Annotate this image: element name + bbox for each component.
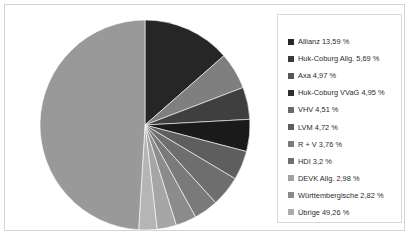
legend-color-swatch-icon xyxy=(288,124,294,130)
legend-color-swatch-icon xyxy=(288,39,294,45)
legend-item-label: VHV 4,51 % xyxy=(298,105,338,114)
legend-list: Allianz 13,59 %Huk-Coburg Allg. 5,69 %Ax… xyxy=(288,33,399,221)
legend-color-swatch-icon xyxy=(288,175,294,181)
legend-color-swatch-icon xyxy=(288,56,294,62)
legend-item-label: Huk-Coburg VVaG 4,95 % xyxy=(298,88,385,97)
legend-color-swatch-icon xyxy=(288,107,294,113)
legend-item[interactable]: Württembergische 2,82 % xyxy=(288,187,399,204)
legend-item-label: Württembergische 2,82 % xyxy=(298,191,384,200)
legend-color-swatch-icon xyxy=(288,209,294,215)
legend-item[interactable]: Axa 4,97 % xyxy=(288,67,399,84)
legend-item[interactable]: Huk-Coburg VVaG 4,95 % xyxy=(288,84,399,101)
pie-slice[interactable] xyxy=(40,20,145,230)
legend-item[interactable]: DEVK Allg. 2,98 % xyxy=(288,170,399,187)
legend-item-label: DEVK Allg. 2,98 % xyxy=(298,174,360,183)
legend-item[interactable]: HDI 3,2 % xyxy=(288,153,399,170)
legend-color-swatch-icon xyxy=(288,158,294,164)
chart-legend: Allianz 13,59 %Huk-Coburg Allg. 5,69 %Ax… xyxy=(277,14,402,223)
legend-color-swatch-icon xyxy=(288,141,294,147)
legend-item-label: LVM 4,72 % xyxy=(298,123,338,132)
legend-item-label: R + V 3,76 % xyxy=(298,140,342,149)
legend-item[interactable]: Huk-Coburg Allg. 5,69 % xyxy=(288,50,399,67)
chart-frame: Allianz 13,59 %Huk-Coburg Allg. 5,69 %Ax… xyxy=(4,4,405,231)
legend-item[interactable]: R + V 3,76 % xyxy=(288,136,399,153)
plot-area xyxy=(5,5,257,232)
legend-item-label: Huk-Coburg Allg. 5,69 % xyxy=(298,54,379,63)
legend-color-swatch-icon xyxy=(288,90,294,96)
pie-slice-group xyxy=(40,20,250,230)
legend-item-label: Axa 4,97 % xyxy=(298,71,336,80)
legend-color-swatch-icon xyxy=(288,192,294,198)
legend-item-label: Allianz 13,59 % xyxy=(298,37,349,46)
legend-item-label: HDI 3,2 % xyxy=(298,157,332,166)
legend-color-swatch-icon xyxy=(288,73,294,79)
legend-item[interactable]: VHV 4,51 % xyxy=(288,101,399,118)
pie-chart[interactable] xyxy=(39,19,251,231)
legend-item[interactable]: Übrige 49,26 % xyxy=(288,204,399,221)
legend-item[interactable]: Allianz 13,59 % xyxy=(288,33,399,50)
legend-item[interactable]: LVM 4,72 % xyxy=(288,118,399,135)
legend-item-label: Übrige 49,26 % xyxy=(298,208,349,217)
